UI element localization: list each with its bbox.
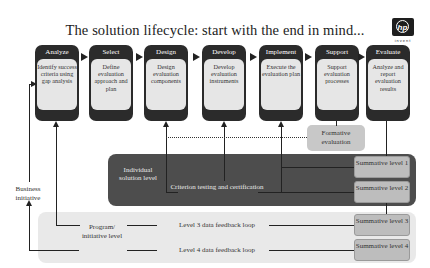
connector-line [281, 126, 282, 192]
phase-description: Design evaluation components [146, 59, 186, 110]
connector-line [281, 167, 354, 168]
connector-line [127, 250, 157, 251]
formative-dotted-line [166, 137, 307, 138]
connector-line [386, 121, 387, 156]
summative-level-3: Summative level 3 [354, 214, 410, 236]
phase-description: Develop evaluation instruments [204, 59, 244, 110]
connector-line [258, 192, 354, 193]
arrow-up-icon [26, 200, 32, 206]
arrow-up-icon [163, 121, 169, 127]
connector-line [127, 225, 157, 226]
phase-evaluate: Evaluate Analyze and report evaluation r… [366, 45, 410, 121]
connector-line [166, 192, 178, 193]
connector-line [29, 250, 79, 251]
phase-description: Execute the evaluation plan [261, 59, 301, 110]
phase-title: Support [315, 45, 359, 60]
connector-line [56, 225, 80, 226]
phase-select: Select Define evaluation approach and pl… [89, 45, 133, 121]
arrow-right-icon [81, 53, 88, 61]
connector-line [29, 84, 30, 182]
connector-line [29, 203, 30, 250]
phase-description: Define evaluation approach and plan [91, 59, 131, 110]
phase-design: Design Design evaluation components [144, 45, 188, 121]
individual-level-label: Individual solution level [113, 166, 163, 182]
summative-level-1: Summative level 1 [354, 156, 410, 178]
arrow-right-icon [193, 53, 200, 61]
hp-logo-icon: hp [392, 18, 414, 36]
hp-logo-mark: hp [396, 20, 409, 33]
phase-title: Implement [259, 45, 303, 60]
program-level-label: Program/ initiative level [78, 223, 126, 240]
phase-support: Support Support evaluation processes [315, 45, 359, 121]
phase-description: Support evaluation processes [317, 59, 357, 110]
phase-description: Identify success criteria using gap anal… [37, 59, 77, 110]
connector-line [336, 121, 337, 126]
summative-level-2: Summative level 2 [354, 181, 410, 203]
connector-line [56, 126, 57, 226]
phase-description: Analyze and report evaluation results [368, 59, 408, 110]
connector-line [269, 225, 354, 226]
arrow-right-icon [358, 53, 365, 61]
connector-line [386, 203, 387, 214]
phase-title: Select [89, 45, 133, 60]
phase-analyze: Analyze Identify success criteria using … [35, 45, 79, 121]
arrow-right-icon [305, 53, 312, 61]
connector-line [166, 126, 167, 192]
phase-title: Analyze [35, 45, 79, 60]
summative-level-4: Summative level 4 [354, 239, 410, 261]
formative-evaluation-box: Formative evaluation [307, 125, 365, 151]
arrow-up-icon [278, 121, 284, 127]
hp-logo-tagline: invent [390, 38, 416, 43]
arrow-right-icon [31, 81, 37, 87]
level4-feedback-loop-label: Level 4 data feedback loop [162, 246, 272, 255]
arrow-up-icon [221, 121, 227, 127]
phase-develop: Develop Develop evaluation instruments [202, 45, 246, 121]
connector-line [224, 126, 225, 181]
level3-feedback-loop-label: Level 3 data feedback loop [162, 221, 272, 230]
arrow-up-icon [53, 121, 59, 127]
diagram-title: The solution lifecycle: start with the e… [60, 22, 370, 39]
phase-title: Develop [202, 45, 246, 60]
phase-title: Design [144, 45, 188, 60]
arrow-right-icon [250, 53, 257, 61]
phase-title: Evaluate [366, 45, 410, 60]
arrow-right-icon [136, 53, 143, 61]
phase-implement: Implement Execute the evaluation plan [259, 45, 303, 121]
connector-line [269, 250, 354, 251]
criterion-testing-label: Criterion testing and certification [162, 183, 272, 191]
